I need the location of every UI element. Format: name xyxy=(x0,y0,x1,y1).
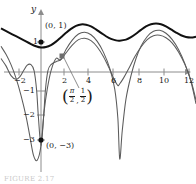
y-axis-label: y xyxy=(31,5,36,14)
y-tick-label: −3 xyxy=(23,136,35,144)
paren-close: ) xyxy=(86,90,93,103)
y-tick-label: 1 xyxy=(33,38,38,46)
fraction-comma: , xyxy=(75,97,80,105)
point-marker-0-1 xyxy=(38,39,43,44)
fraction-x: π 2 xyxy=(69,88,76,104)
fraction-x-numerator: π xyxy=(69,88,76,95)
x-tick-label: 12 xyxy=(184,77,194,85)
figure-container: y (0, 1) (0, −3) ( π 2 , 1 2 ) −22468101… xyxy=(0,0,196,184)
paren-open: ( xyxy=(62,90,69,103)
figure-caption: FIGURE 2.17 xyxy=(4,175,55,183)
annotation-point-0-neg3: (0, −3) xyxy=(46,142,74,150)
x-tick-label: 10 xyxy=(159,77,169,85)
x-tick-label: 4 xyxy=(86,77,91,85)
point-marker-pi-half xyxy=(60,54,65,59)
y-tick-label: −1 xyxy=(23,87,35,95)
annotation-point-0-1: (0, 1) xyxy=(45,22,67,30)
x-tick-label: 2 xyxy=(62,77,67,85)
fraction-x-denominator: 2 xyxy=(69,97,75,104)
x-tick-label: 6 xyxy=(111,77,116,85)
point-marker-0-neg3 xyxy=(38,137,43,142)
x-tick-label: −2 xyxy=(14,77,26,85)
x-tick-label: 8 xyxy=(137,77,142,85)
y-tick-label: −2 xyxy=(23,111,35,119)
annotation-point-pi-half: ( π 2 , 1 2 ) xyxy=(62,88,93,104)
